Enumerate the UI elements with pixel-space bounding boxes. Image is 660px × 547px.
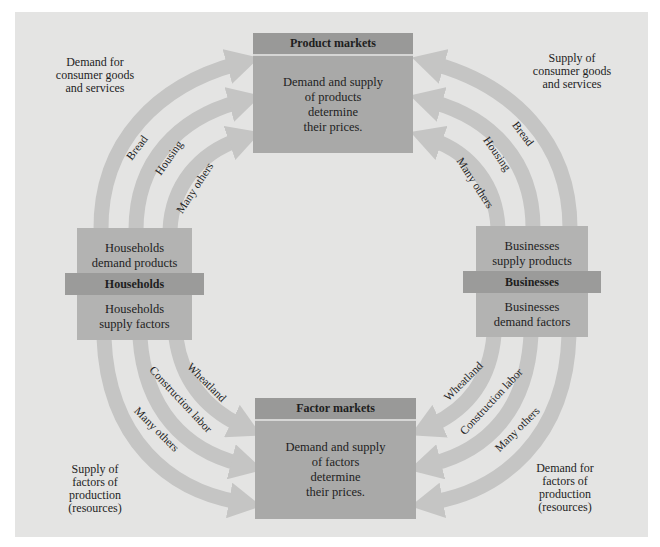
product-markets-description: Demand and supply of products determine … [253,56,413,153]
arrow-manyothers-businesses-product [433,140,498,228]
product-markets-box: Product markets Demand and supply of pro… [253,33,413,153]
product-markets-title: Product markets [253,33,413,56]
label-supply-consumer-goods: Supply of consumer goods and services [522,52,622,91]
businesses-supply-products: Businesses supply products [476,239,588,269]
factor-markets-box: Factor markets Demand and supply of fact… [255,398,416,519]
households-demand-products: Households demand products [77,241,192,271]
households-title: Households [65,273,204,295]
businesses-title: Businesses [463,271,601,293]
label-demand-factors: Demand for factors of production (resour… [530,462,600,514]
factor-markets-title: Factor markets [255,398,416,421]
factor-markets-description: Demand and supply of factors determine t… [255,421,416,519]
households-supply-factors: Households supply factors [77,302,192,332]
label-demand-consumer-goods: Demand for consumer goods and services [50,56,140,95]
label-supply-factors: Supply of factors of production (resourc… [60,463,130,515]
businesses-demand-factors: Businesses demand factors [476,300,588,330]
arrow-manyothers-households-product [170,140,238,230]
